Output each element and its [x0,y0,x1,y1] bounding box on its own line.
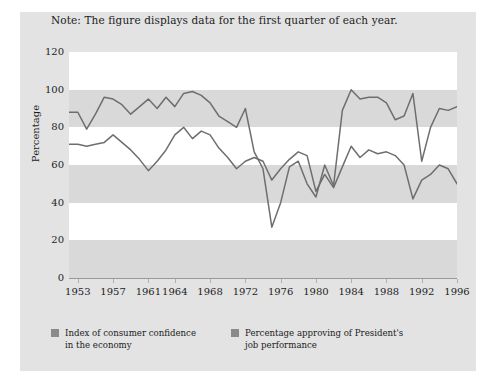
chart-lines [69,52,457,278]
x-tick-label: 1972 [233,286,258,297]
x-tick-label: 1984 [338,286,363,297]
legend-label-line1: Index of consumer confidence [65,328,196,340]
x-tick-label: 1957 [100,286,125,297]
x-tick-mark [175,279,176,283]
y-axis-label: Percentage [30,74,41,194]
legend-label-line2: job performance [245,340,403,352]
x-tick-label: 1988 [374,286,399,297]
x-tick-mark [386,279,387,283]
legend-swatch-icon [51,329,59,337]
legend-label: Percentage approving of President'sjob p… [245,328,403,351]
series-line-consumer-confidence [69,127,457,199]
x-axis-line [69,278,457,279]
x-tick-label: 1996 [444,286,469,297]
y-tick-label: 20 [18,234,64,245]
legend-label-line1: Percentage approving of President's [245,328,403,340]
x-tick-mark [351,279,352,283]
x-tick-label: 1953 [65,286,90,297]
y-tick-label: 80 [18,121,64,132]
x-tick-mark [148,279,149,283]
x-tick-label: 1976 [268,286,293,297]
legend-item[interactable]: Percentage approving of President'sjob p… [231,328,403,351]
x-tick-label: 1961 [136,286,161,297]
x-tick-label: 1968 [197,286,222,297]
plot-area [69,52,457,278]
legend-label: Index of consumer confidencein the econo… [65,328,196,351]
x-tick-label: 1980 [303,286,328,297]
x-tick-mark [316,279,317,283]
x-tick-label: 1992 [409,286,434,297]
y-tick-label: 100 [18,84,64,95]
legend-label-line2: in the economy [65,340,196,352]
y-tick-label: 60 [18,159,64,170]
y-tick-label: 120 [18,46,64,57]
x-tick-mark [78,279,79,283]
x-tick-mark [210,279,211,283]
figure-note: Note: The figure displays data for the f… [51,14,441,26]
legend-item[interactable]: Index of consumer confidencein the econo… [51,328,196,351]
y-tick-label: 0 [18,272,64,283]
legend-swatch-icon [231,329,239,337]
x-tick-mark [457,279,458,283]
y-tick-label: 40 [18,197,64,208]
x-tick-label: 1964 [162,286,187,297]
x-tick-mark [422,279,423,283]
x-tick-mark [281,279,282,283]
x-tick-mark [245,279,246,283]
x-tick-mark [113,279,114,283]
